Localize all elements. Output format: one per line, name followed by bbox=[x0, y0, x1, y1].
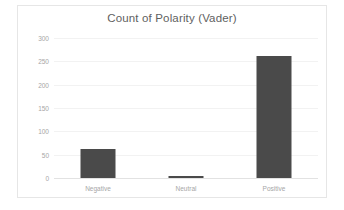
y-axis-tick-label: 50 bbox=[42, 151, 49, 158]
chart-container: Count of Polarity (Vader) 05010015020025… bbox=[17, 5, 327, 198]
gridline bbox=[54, 178, 318, 179]
y-axis-tick-label: 0 bbox=[45, 175, 49, 182]
bar-group: Negative bbox=[54, 38, 142, 178]
x-axis-category-label: Positive bbox=[263, 185, 286, 192]
bar[interactable] bbox=[81, 149, 116, 178]
bar[interactable] bbox=[169, 176, 204, 178]
y-axis-tick-label: 150 bbox=[38, 105, 49, 112]
y-axis-tick-label: 250 bbox=[38, 58, 49, 65]
plot-area: 050100150200250300 NegativeNeutralPositi… bbox=[54, 38, 318, 178]
x-axis-category-label: Negative bbox=[85, 185, 111, 192]
y-axis-tick-label: 100 bbox=[38, 128, 49, 135]
x-axis-category-label: Neutral bbox=[176, 185, 197, 192]
chart-title: Count of Polarity (Vader) bbox=[18, 12, 326, 24]
y-axis-tick-label: 200 bbox=[38, 81, 49, 88]
bars-group: NegativeNeutralPositive bbox=[54, 38, 318, 178]
y-axis-tick-label: 300 bbox=[38, 35, 49, 42]
bar-group: Neutral bbox=[142, 38, 230, 178]
bar[interactable] bbox=[257, 56, 292, 178]
bar-group: Positive bbox=[230, 38, 318, 178]
